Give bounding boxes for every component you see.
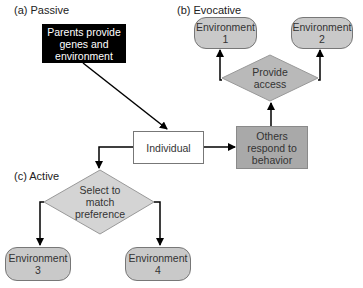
parents-node: Parents provide genes and environment [42,24,126,63]
env3-line1: Environment [9,252,68,264]
env4-line2: 4 [129,264,188,276]
individual-node: Individual [133,131,204,164]
env2-line2: 2 [293,33,352,45]
parents-line2: genes and [47,38,121,50]
parents-line1: Parents provide [47,26,121,38]
others-line3: behavior [247,154,297,166]
others-line2: respond to [247,142,297,154]
select-line3: preference [75,208,125,220]
individual-text: Individual [146,142,190,154]
environment-1-node: Environment 1 [194,17,257,49]
select-line1: Select to [75,184,125,196]
env1-line2: 1 [196,33,255,45]
env3-line2: 3 [9,264,68,276]
env4-line1: Environment [129,252,188,264]
select-line2: match [75,196,125,208]
parents-line3: environment [47,50,121,62]
label-active: (c) Active [14,170,59,182]
label-passive: (a) Passive [14,4,69,16]
provide-line1: Provide [252,66,288,78]
label-evocative: (b) Evocative [177,4,241,16]
environment-3-node: Environment 3 [5,247,71,281]
provide-access-text: Provide access [232,62,308,94]
others-line1: Others [247,130,297,142]
env1-line1: Environment [196,21,255,33]
provide-line2: access [252,78,288,90]
others-node: Others respond to behavior [236,126,308,169]
environment-2-node: Environment 2 [291,17,353,49]
environment-4-node: Environment 4 [125,247,191,281]
env2-line1: Environment [293,21,352,33]
select-text: Select to match preference [60,182,140,222]
